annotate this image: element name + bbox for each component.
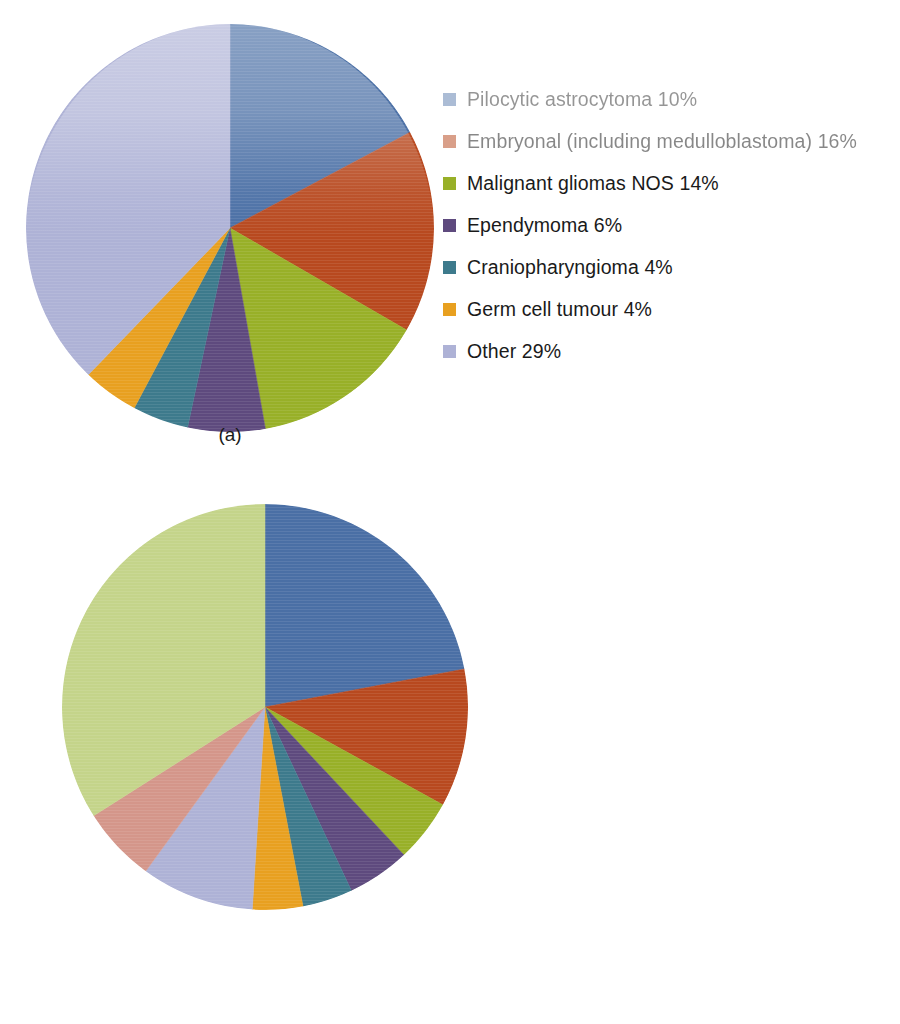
legend-item[interactable]: Germ cell tumour 4% xyxy=(443,288,857,330)
legend-item[interactable]: Malignant gliomas NOS 14% xyxy=(443,162,857,204)
panel-a: Pilocytic astrocytoma 10%Embryonal (incl… xyxy=(0,0,900,470)
figure-root: Pilocytic astrocytoma 10%Embryonal (incl… xyxy=(0,0,900,1024)
legend-swatch-icon xyxy=(443,345,456,358)
legend-swatch-icon xyxy=(443,303,456,316)
legend-item-label: Germ cell tumour 4% xyxy=(467,298,652,321)
pie-chart-b xyxy=(62,504,468,910)
legend-item[interactable]: Embryonal (including medulloblastoma) 16… xyxy=(443,120,857,162)
pie-slices-b xyxy=(62,504,468,910)
legend-swatch-icon xyxy=(443,219,456,232)
legend-item-label: Malignant gliomas NOS 14% xyxy=(467,172,719,195)
legend-swatch-icon xyxy=(443,93,456,106)
legend-item-label: Other 29% xyxy=(467,340,561,363)
pie-chart-a xyxy=(26,24,434,432)
legend-item-label: Craniopharyngioma 4% xyxy=(467,256,673,279)
legend-swatch-icon xyxy=(443,261,456,274)
legend-item[interactable]: Craniopharyngioma 4% xyxy=(443,246,857,288)
legend-item[interactable]: Other 29% xyxy=(443,330,857,372)
legend-item[interactable]: Ependymoma 6% xyxy=(443,204,857,246)
panel-caption-a: (a) xyxy=(170,424,290,446)
legend-a: Pilocytic astrocytoma 10%Embryonal (incl… xyxy=(443,78,857,372)
legend-item-label: Embryonal (including medulloblastoma) 16… xyxy=(467,130,857,153)
legend-item[interactable]: Pilocytic astrocytoma 10% xyxy=(443,78,857,120)
legend-item-label: Ependymoma 6% xyxy=(467,214,622,237)
legend-swatch-icon xyxy=(443,177,456,190)
panel-b: Pituitary 22%Pilocytic astrocytoma 11%Ep… xyxy=(0,478,900,1024)
legend-swatch-icon xyxy=(443,135,456,148)
pie-slices-a xyxy=(26,24,434,432)
legend-item-label: Pilocytic astrocytoma 10% xyxy=(467,88,697,111)
